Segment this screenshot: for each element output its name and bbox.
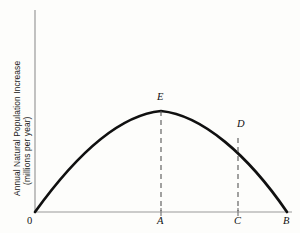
x-tick-label-c: C [234, 215, 241, 226]
chart-figure: Annual Natural Population Increase (mill… [0, 0, 300, 233]
chart-plot-area [0, 0, 300, 233]
x-tick-label-b: B [283, 215, 289, 226]
point-label-d: D [237, 118, 245, 129]
x-tick-label-a: A [157, 215, 163, 226]
x-tick-label-origin: 0 [27, 215, 32, 226]
point-label-e: E [157, 91, 163, 102]
